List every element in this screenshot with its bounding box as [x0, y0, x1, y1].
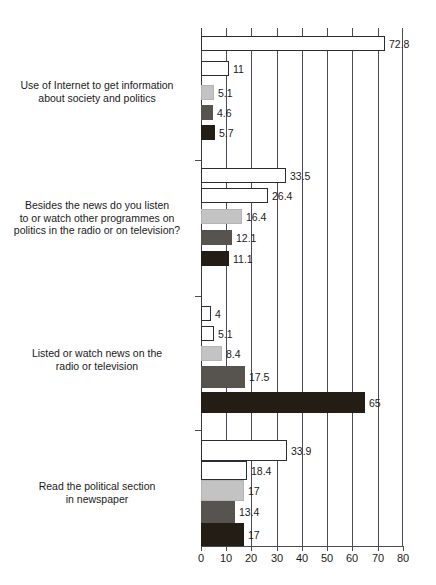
- x-axis-tick: [226, 546, 227, 551]
- bar-g3-s4: [201, 366, 245, 388]
- group-separator-tick: [195, 296, 201, 297]
- bar-value-label: 65: [366, 397, 381, 408]
- bar-g2-s3: [201, 209, 242, 224]
- bar-g3-s3: [201, 346, 222, 361]
- category-label-line: Listed or watch news on the: [4, 347, 190, 360]
- bar-g4-s4: [201, 501, 235, 523]
- bar-g2-s5: [201, 251, 229, 266]
- x-axis-tick-label: 70: [365, 552, 391, 565]
- bar-value-label: 5.1: [215, 87, 233, 98]
- bar-value-label: 12.1: [233, 232, 256, 243]
- bar-g3-s5: [201, 392, 365, 413]
- x-axis-tick: [403, 546, 404, 551]
- category-label-3: Listed or watch news on the radio or tel…: [4, 347, 190, 372]
- bar-g1-s4: [201, 105, 213, 120]
- category-label-4: Read the political section in newspaper: [4, 480, 190, 505]
- bar-chart: 72.8 11 5.1 4.6 5.7 33.5 26.4: [0, 0, 436, 585]
- category-label-line: Read the political section: [4, 480, 190, 493]
- bar-g1-s5: [201, 125, 215, 140]
- bar-value-label: 17: [245, 529, 260, 540]
- bar-value-label: 17.5: [246, 372, 269, 383]
- bar-g4-s3: [201, 480, 244, 501]
- group-separator-tick: [195, 160, 201, 161]
- bar-value-label: 4: [212, 308, 221, 319]
- group-separator-tick: [195, 430, 201, 431]
- x-axis-tick: [352, 546, 353, 551]
- bar-g2-s1: [201, 168, 286, 183]
- x-axis-tick: [277, 546, 278, 551]
- bar-value-label: 11: [230, 63, 244, 74]
- bar-value-label: 33.5: [287, 170, 310, 181]
- x-axis-tick-label: 80: [390, 552, 416, 565]
- x-axis-tick-label: 20: [238, 552, 264, 565]
- bar-g1-s2: [201, 61, 229, 76]
- category-label-line: Besides the news do you listen: [4, 199, 190, 212]
- x-axis-tick: [302, 546, 303, 551]
- category-label-line: radio or television: [4, 360, 190, 373]
- bar-value-label: 4.6: [214, 107, 232, 118]
- bar-value-label: 13.4: [236, 507, 259, 518]
- x-axis-tick-label: 40: [289, 552, 315, 565]
- category-label-line: politics in the radio or on television?: [4, 224, 190, 237]
- bar-value-label: 5.7: [216, 127, 234, 138]
- x-axis-tick-label: 0: [188, 552, 214, 565]
- bar-g4-s5: [201, 523, 244, 546]
- bar-value-label: 17: [245, 485, 260, 496]
- bar-value-label: 16.4: [243, 211, 266, 222]
- bar-value-label: 26.4: [269, 190, 292, 201]
- x-axis-tick-label: 60: [339, 552, 365, 565]
- x-axis-tick-label: 30: [264, 552, 290, 565]
- category-label-line: to or watch other programmes on: [4, 212, 190, 225]
- bar-g3-s2: [201, 326, 214, 341]
- bar-g1-s1: [201, 36, 385, 51]
- x-axis-tick-label: 10: [213, 552, 239, 565]
- bar-g2-s2: [201, 188, 268, 203]
- bar-value-label: 8.4: [223, 348, 241, 359]
- bar-value-label: 33.9: [288, 445, 311, 456]
- bar-value-label: 72.8: [386, 38, 409, 49]
- bar-value-label: 18.4: [248, 465, 271, 476]
- bar-value-label: 5.1: [215, 328, 233, 339]
- category-label-line: in newspaper: [4, 493, 190, 506]
- bar-g3-s1: [201, 306, 211, 321]
- bar-g4-s2: [201, 461, 247, 480]
- category-label-line: Use of Internet to get information: [4, 79, 190, 92]
- bar-g4-s1: [201, 440, 287, 461]
- category-label-1: Use of Internet to get information about…: [4, 79, 190, 104]
- x-axis-tick: [378, 546, 379, 551]
- x-axis-tick: [201, 546, 202, 551]
- bar-g1-s3: [201, 85, 214, 100]
- category-label-line: about society and politics: [4, 92, 190, 105]
- category-label-2: Besides the news do you listen to or wat…: [4, 199, 190, 237]
- bar-g2-s4: [201, 230, 232, 245]
- x-axis-tick: [251, 546, 252, 551]
- bar-value-label: 11.1: [230, 253, 253, 264]
- x-axis-tick: [327, 546, 328, 551]
- x-axis-tick-label: 50: [314, 552, 340, 565]
